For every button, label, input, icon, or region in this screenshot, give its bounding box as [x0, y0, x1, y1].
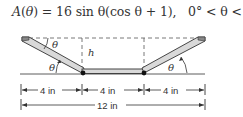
left-edge-cap [22, 37, 29, 41]
dimension-row-total: 12 in [21, 99, 205, 111]
segment-label-3: 4 in [163, 85, 178, 96]
segment-label-1: 4 in [40, 85, 55, 96]
bottom-panel [82, 69, 144, 74]
right-edge-cap [198, 37, 205, 41]
hinge-dot-right [142, 71, 147, 76]
theta-label-bottom-left: θ [49, 62, 55, 73]
total-width-label: 12 in [97, 100, 118, 111]
height-label: h [88, 47, 94, 58]
theta-label-right: θ [168, 62, 174, 73]
segment-label-2: 4 in [100, 85, 115, 96]
theta-label-top-left: θ [52, 39, 58, 50]
hinge-dot-left [81, 71, 86, 76]
gutter-diagram: θ θ θ h 4 in 4 in 4 in 12 in [0, 0, 243, 117]
dimension-row-segments: 4 in 4 in 4 in [21, 84, 205, 96]
